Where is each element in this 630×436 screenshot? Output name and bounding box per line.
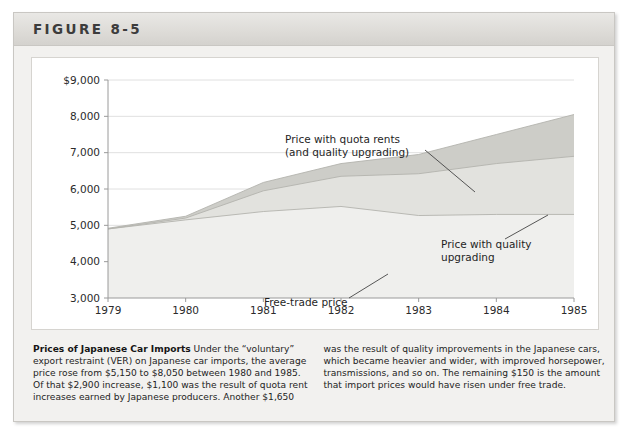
annotation-quota-rents: Price with quota rents(and quality upgra…	[285, 133, 409, 158]
x-tick-label: 1984	[483, 304, 510, 316]
caption-left-line: price rose from $5,150 to $8,050 between…	[33, 368, 307, 380]
figure-number-label: FIGURE 8-5	[33, 21, 142, 37]
x-tick-label: 1980	[172, 304, 199, 316]
x-tick-label: 1983	[405, 304, 432, 316]
caption-left-line: export restraint (VER) on Japanese car i…	[33, 356, 307, 368]
y-tick-label: $9,000	[63, 74, 100, 86]
x-tick-label: 1979	[95, 304, 122, 316]
annotation-line: Price with quality	[441, 238, 532, 250]
annotation-free-trade-price: Free-trade price	[264, 296, 348, 308]
annotation-line: Free-trade price	[264, 296, 348, 308]
figure-header-band: FIGURE 8-5	[14, 13, 614, 46]
caption-left-line: increases earned by Japanese producers. …	[33, 392, 307, 404]
y-tick-label: 6,000	[70, 183, 100, 195]
caption-right-line: was the result of quality improvements i…	[323, 344, 604, 356]
figure-page: FIGURE 8-5 3,0004,0005,0006,0007,0008,00…	[0, 0, 630, 436]
caption-left-line: Of that $2,900 increase, $1,100 was the …	[33, 380, 307, 392]
chart-panel: 3,0004,0005,0006,0007,0008,000$9,000 197…	[31, 57, 599, 330]
annotation-line: (and quality upgrading)	[285, 146, 409, 158]
annotation-line: upgrading	[441, 251, 495, 263]
y-tick-label: 7,000	[70, 146, 100, 158]
annotation-line: Price with quota rents	[285, 133, 400, 145]
figure-caption: Prices of Japanese Car Imports Under the…	[31, 340, 599, 416]
caption-lead-title: Prices of Japanese Car Imports	[33, 344, 191, 354]
x-tick-label: 1985	[561, 304, 588, 316]
y-tick-label: 3,000	[70, 292, 100, 304]
caption-right-column: was the result of quality improvements i…	[323, 344, 604, 404]
y-tick-label: 8,000	[70, 110, 100, 122]
y-tick-labels-group: 3,0004,0005,0006,0007,0008,000$9,000	[63, 74, 100, 304]
price-area-chart: 3,0004,0005,0006,0007,0008,000$9,000 197…	[32, 58, 598, 329]
caption-right-line: that import prices would have risen unde…	[323, 380, 604, 392]
figure-frame: FIGURE 8-5 3,0004,0005,0006,0007,0008,00…	[13, 12, 615, 422]
caption-left-column: Prices of Japanese Car Imports Under the…	[33, 344, 307, 404]
y-tick-label: 4,000	[70, 255, 100, 267]
y-tick-label: 5,000	[70, 219, 100, 231]
caption-right-line: transmissions, and so on. The remaining …	[323, 368, 604, 380]
caption-right-line: which became heavier and wider, with imp…	[323, 356, 604, 368]
caption-left-first-line: Under the “voluntary”	[194, 344, 295, 354]
